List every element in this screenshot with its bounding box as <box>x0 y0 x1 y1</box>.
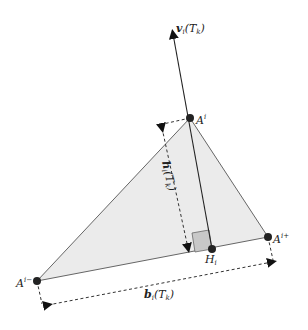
base-label: bi(Tk) <box>144 288 174 302</box>
vertex-right <box>264 233 272 241</box>
right-vertex-label: Ai+ <box>272 232 289 246</box>
vertex-left <box>33 277 41 285</box>
apex-label: Ai <box>195 113 206 127</box>
vertex-apex <box>186 114 194 122</box>
left-vertex-label: Ai− <box>15 276 32 290</box>
foot-label: Hi <box>204 253 217 267</box>
normal-vector-label: vi(Tk) <box>176 22 205 36</box>
foot-point <box>208 245 216 253</box>
triangle-diagram: vi(Tk) Ai Ai− Ai+ Hi hi(Tk) bi(Tk) <box>0 0 308 330</box>
triangle <box>37 118 268 281</box>
